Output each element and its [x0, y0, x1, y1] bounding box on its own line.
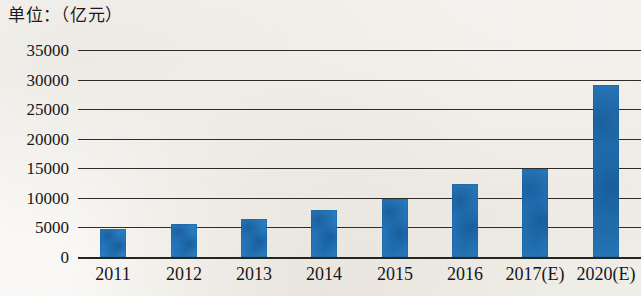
x-axis-label-2020(E): 2020(E) — [577, 265, 636, 283]
gridline — [78, 80, 641, 81]
bar-2013 — [241, 219, 267, 257]
bar-2011 — [100, 229, 126, 257]
x-axis-line — [78, 257, 641, 259]
bar-2012 — [171, 224, 197, 257]
bar-2017(E) — [522, 169, 548, 257]
x-axis-label-2017(E): 2017(E) — [506, 265, 565, 283]
gridline — [78, 168, 641, 169]
bar-2015 — [382, 199, 408, 257]
x-axis-label-2015: 2015 — [377, 265, 413, 283]
x-axis-label-2011: 2011 — [95, 265, 130, 283]
x-axis-label-2016: 2016 — [447, 265, 483, 283]
y-axis-label: 25000 — [27, 101, 79, 118]
x-axis-label-2012: 2012 — [166, 265, 202, 283]
y-axis-label: 15000 — [27, 160, 79, 177]
gridline — [78, 109, 641, 110]
plot-area: 05000100001500020000250003000035000 2011… — [78, 50, 641, 257]
y-axis-label: 30000 — [27, 71, 79, 88]
bar-2016 — [452, 184, 478, 257]
x-axis-label-2013: 2013 — [236, 265, 272, 283]
chart-page: 单位：（亿元） 05000100001500020000250003000035… — [0, 0, 641, 296]
y-axis-label: 35000 — [27, 42, 79, 59]
y-axis-label: 20000 — [27, 130, 79, 147]
gridline — [78, 139, 641, 140]
gridline — [78, 50, 641, 51]
bar-2020(E) — [593, 85, 619, 257]
gridline — [78, 227, 641, 228]
bar-2014 — [311, 210, 337, 257]
gridline — [78, 198, 641, 199]
x-axis-label-2014: 2014 — [306, 265, 342, 283]
y-axis-label: 0 — [61, 249, 79, 266]
y-axis-label: 10000 — [27, 189, 79, 206]
chart-unit-title: 单位：（亿元） — [8, 2, 123, 28]
y-axis-label: 5000 — [35, 219, 78, 236]
